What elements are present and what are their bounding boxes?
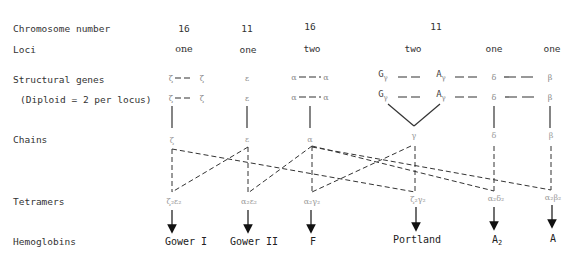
gene-delta-row2: δ: [492, 93, 497, 102]
gene-delta-row1: δ: [492, 73, 497, 82]
hemoglobin-gower-2: Gower II: [230, 236, 278, 247]
gene-beta-row2: β: [548, 93, 553, 102]
tetramer-alpha2-beta2: α₂β₂: [545, 193, 561, 202]
gene-alpha-row2-right: α: [323, 93, 328, 102]
tetramer-zeta2-epsilon2: ζ₂ε₂: [167, 197, 182, 206]
gene-zeta-row2-left: ζ: [169, 94, 173, 103]
chain-delta: δ: [492, 131, 497, 140]
tetramer-alpha2-delta2: α₂δ₂: [488, 194, 505, 203]
hemoglobin-a: A: [550, 233, 556, 244]
tetramer-alpha2-epsilon2: α₂ε₂: [241, 197, 257, 206]
gene-A-gamma-row2: Aγ: [436, 89, 446, 99]
hemoglobin-gower-1: Gower I: [165, 236, 207, 247]
hemoglobin-a2: A2: [492, 234, 502, 245]
gene-G-gamma-row1: Gγ: [378, 69, 388, 79]
diagram-lines: [0, 0, 574, 258]
hemoglobin-f: F: [310, 236, 316, 247]
gene-alpha-row2-left: α: [291, 93, 296, 102]
gene-A-gamma-row1: Aγ: [436, 69, 446, 79]
gene-zeta-row1-left: ζ: [169, 74, 173, 83]
gene-alpha-row1-left: α: [291, 73, 296, 82]
gene-epsilon-row1: ε: [245, 74, 249, 83]
chain-beta: β: [549, 131, 554, 140]
gene-alpha-row1-right: α: [323, 73, 328, 82]
hemoglobin-portland: Portland: [393, 234, 441, 245]
chain-gamma: γ: [412, 131, 417, 140]
tetramer-alpha2-gamma2: α₂γ₂: [304, 197, 321, 206]
chain-epsilon: ε: [245, 135, 249, 144]
gene-beta-row1: β: [548, 73, 553, 82]
gene-epsilon-row2: ε: [245, 94, 249, 103]
gene-zeta-row2-right: ζ: [200, 94, 204, 103]
gene-G-gamma-row2: Gγ: [378, 89, 388, 99]
chain-alpha: α: [307, 135, 312, 144]
tetramer-zeta2-gamma2: ζ₂γ₂: [410, 195, 426, 204]
gene-zeta-row1-right: ζ: [200, 74, 204, 83]
chain-zeta: ζ: [170, 136, 174, 145]
